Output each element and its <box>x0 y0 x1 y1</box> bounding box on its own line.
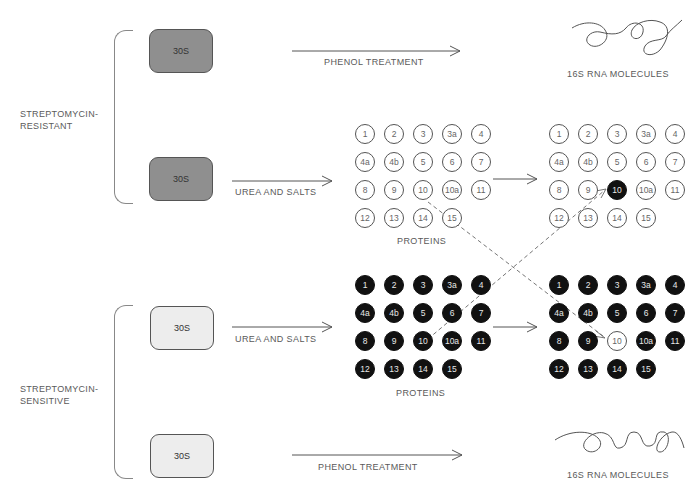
protein-12: 12 <box>549 359 569 379</box>
phenol-treatment-label-bottom: PHENOL TREATMENT <box>318 462 418 472</box>
rna-molecules-label-top: 16S RNA MOLECULES <box>567 69 669 79</box>
protein-13: 13 <box>578 359 598 379</box>
protein-10a: 10a <box>442 331 462 351</box>
protein-4b: 4b <box>578 303 598 323</box>
protein-10: 10 <box>607 331 627 351</box>
protein-9: 9 <box>384 180 404 200</box>
protein-3: 3 <box>413 275 433 295</box>
protein-5: 5 <box>607 152 627 172</box>
rna-molecules-label-bottom: 16S RNA MOLECULES <box>567 470 669 480</box>
protein-4: 4 <box>665 275 685 295</box>
protein-3a: 3a <box>636 124 656 144</box>
protein-10: 10 <box>607 180 627 200</box>
protein-7: 7 <box>665 303 685 323</box>
protein-4a: 4a <box>549 152 569 172</box>
protein-2: 2 <box>384 275 404 295</box>
protein-8: 8 <box>355 180 375 200</box>
protein-2: 2 <box>578 124 598 144</box>
sensitive-proteins-grid: 1233a44a4b567891010a1112131415 <box>355 275 495 387</box>
phenol-treatment-label-top: PHENOL TREATMENT <box>324 57 424 67</box>
protein-11: 11 <box>471 180 491 200</box>
protein-6: 6 <box>442 152 462 172</box>
protein-15: 15 <box>636 359 656 379</box>
rna-molecule-bottom <box>555 432 684 452</box>
protein-1: 1 <box>355 124 375 144</box>
protein-10: 10 <box>413 331 433 351</box>
resistant-proteins-grid: 1233a44a4b567891010a1112131415 <box>355 124 495 236</box>
protein-9: 9 <box>578 180 598 200</box>
protein-8: 8 <box>549 331 569 351</box>
protein-13: 13 <box>384 359 404 379</box>
protein-4a: 4a <box>355 152 375 172</box>
protein-5: 5 <box>607 303 627 323</box>
protein-3: 3 <box>607 124 627 144</box>
protein-4b: 4b <box>384 303 404 323</box>
protein-10a: 10a <box>636 180 656 200</box>
protein-6: 6 <box>636 303 656 323</box>
protein-15: 15 <box>636 208 656 228</box>
protein-4a: 4a <box>549 303 569 323</box>
protein-10: 10 <box>413 180 433 200</box>
protein-7: 7 <box>665 152 685 172</box>
urea-salts-label-bottom: UREA AND SALTS <box>235 334 316 344</box>
protein-6: 6 <box>442 303 462 323</box>
protein-5: 5 <box>413 152 433 172</box>
proteins-label-top: PROTEINS <box>397 236 446 246</box>
protein-7: 7 <box>471 303 491 323</box>
protein-9: 9 <box>578 331 598 351</box>
protein-3a: 3a <box>442 275 462 295</box>
protein-7: 7 <box>471 152 491 172</box>
protein-10a: 10a <box>442 180 462 200</box>
proteins-label-bottom: PROTEINS <box>396 388 445 398</box>
protein-1: 1 <box>355 275 375 295</box>
protein-4a: 4a <box>355 303 375 323</box>
protein-11: 11 <box>665 180 685 200</box>
protein-4: 4 <box>471 275 491 295</box>
protein-11: 11 <box>471 331 491 351</box>
protein-3: 3 <box>413 124 433 144</box>
protein-3a: 3a <box>442 124 462 144</box>
protein-13: 13 <box>578 208 598 228</box>
protein-6: 6 <box>636 152 656 172</box>
protein-1: 1 <box>549 275 569 295</box>
protein-14: 14 <box>413 359 433 379</box>
protein-15: 15 <box>442 208 462 228</box>
protein-14: 14 <box>607 208 627 228</box>
protein-11: 11 <box>665 331 685 351</box>
protein-3a: 3a <box>636 275 656 295</box>
resistant-reconstituted-grid: 1233a44a4b567891010a1112131415 <box>549 124 687 236</box>
sensitive-reconstituted-grid: 1233a44a4b567891010a1112131415 <box>549 275 687 387</box>
protein-8: 8 <box>355 331 375 351</box>
protein-12: 12 <box>355 359 375 379</box>
urea-salts-label-top: UREA AND SALTS <box>235 187 316 197</box>
protein-14: 14 <box>607 359 627 379</box>
protein-10a: 10a <box>636 331 656 351</box>
protein-12: 12 <box>549 208 569 228</box>
protein-5: 5 <box>413 303 433 323</box>
protein-13: 13 <box>384 208 404 228</box>
protein-4: 4 <box>471 124 491 144</box>
protein-4b: 4b <box>384 152 404 172</box>
protein-1: 1 <box>549 124 569 144</box>
protein-4: 4 <box>665 124 685 144</box>
protein-15: 15 <box>442 359 462 379</box>
protein-14: 14 <box>413 208 433 228</box>
protein-9: 9 <box>384 331 404 351</box>
rna-molecule-top <box>572 20 682 55</box>
protein-4b: 4b <box>578 152 598 172</box>
protein-2: 2 <box>578 275 598 295</box>
protein-8: 8 <box>549 180 569 200</box>
protein-2: 2 <box>384 124 404 144</box>
protein-3: 3 <box>607 275 627 295</box>
protein-12: 12 <box>355 208 375 228</box>
